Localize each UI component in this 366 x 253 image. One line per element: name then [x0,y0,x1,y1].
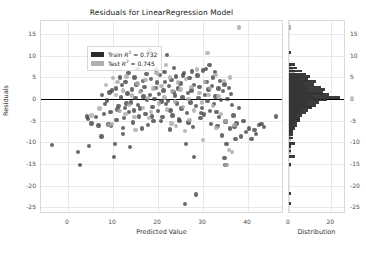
scatter-point-train [123,106,127,110]
page-title: Residuals for LinearRegression Model [40,8,283,17]
scatter-point-train [205,99,209,103]
scatter-point-train [254,132,258,136]
scatter-point-test [165,107,169,111]
histogram-bar-train [289,202,291,205]
y-tick-label: 5 [14,73,36,80]
scatter-point-train [174,74,178,78]
scatter-point-test [130,93,134,97]
scatter-point-test [124,74,128,78]
legend-item-train[interactable]: Train R2 = 0.732 [91,50,157,59]
scatter-point-train [170,113,174,117]
scatter-point-test [174,124,178,128]
scatter-point-train [78,163,82,167]
scatter-point-train [204,67,208,71]
scatter-point-train [194,192,198,196]
gridline [41,207,282,208]
scatter-point-test [181,105,185,109]
y-tick-label-right: -5 [350,116,356,123]
scatter-point-train [216,86,220,90]
histogram-bar-train [289,51,291,54]
scatter-point-test [121,88,125,92]
scatter-point-test [97,106,101,110]
scatter-point-train [220,133,224,137]
scatter-point-test [162,95,166,99]
scatter-point-test [89,113,93,117]
scatter-point-train [87,144,91,148]
y-tick-label-right: -25 [350,203,360,210]
y-tick-label-right: 10 [350,51,358,58]
scatter-point-test [206,93,210,97]
scatter-point-train [209,122,213,126]
scatter-point-test [203,80,207,84]
scatter-point-train [114,86,118,90]
scatter-point-train [128,145,132,149]
scatter-point-test [169,121,173,125]
scatter-point-test [159,84,163,88]
scatter-point-train [237,106,241,110]
scatter-point-train [195,73,199,77]
scatter-point-train [167,84,171,88]
scatter-point-train [114,118,118,122]
scatter-point-train [168,108,172,112]
scatter-point-train [131,120,135,124]
scatter-point-train [150,105,154,109]
scatter-point-train [121,132,125,136]
gridline [41,77,282,78]
scatter-point-train [185,111,189,115]
scatter-point-train [231,113,235,117]
gridline [331,21,332,212]
scatter-point-test [224,163,228,167]
histogram-bar-train [289,137,293,140]
scatter-point-train [118,75,122,79]
histogram-plot-area [288,20,345,213]
scatter-point-train [142,85,146,89]
residuals-figure: Residuals for LinearRegression Model Res… [0,0,366,253]
x-tick-label: 40 [243,218,251,225]
scatter-point-train [262,125,266,129]
scatter-point-test [135,81,139,85]
scatter-point-train [152,97,156,101]
scatter-point-train [180,95,184,99]
x-tick-label: 10 [108,218,116,225]
legend-label-test: Test R2 = 0.745 [108,59,155,67]
scatter-point-test [141,106,145,110]
scatter-point-train [192,155,196,159]
y-axis-label: Residuals [2,85,10,116]
scatter-point-train [149,77,153,81]
scatter-point-test [187,118,191,122]
scatter-point-train [230,103,234,107]
y-tick-label: 10 [14,51,36,58]
y-tick-label: -10 [14,138,36,145]
histogram-x-tick-label: 0 [286,218,290,225]
x-tick-label: 30 [198,218,206,225]
scatter-point-test [127,103,131,107]
scatter-point-train [94,115,98,119]
scatter-point-train [173,93,177,97]
scatter-point-train [122,116,126,120]
scatter-point-test [197,91,201,95]
scatter-point-test [201,138,205,142]
scatter-point-test [223,119,227,123]
x-tick-label: 0 [65,218,69,225]
legend-item-test[interactable]: Test R2 = 0.745 [91,59,157,68]
scatter-point-train [191,125,195,129]
scatter-point-train [168,127,172,131]
gridline [289,164,344,165]
scatter-plot-area: Train R2 = 0.732 Test R2 = 0.745 [40,20,283,213]
scatter-point-test [178,87,182,91]
scatter-point-test [133,128,137,132]
scatter-point-test [211,104,215,108]
scatter-point-test [222,79,226,83]
scatter-point-train [130,87,134,91]
scatter-point-test [123,112,127,116]
x-tick-label: 20 [153,218,161,225]
histogram-bar-train [289,155,295,158]
scatter-point-train [224,142,228,146]
scatter-point-train [132,108,136,112]
scatter-point-train [119,95,123,99]
scatter-point-test [176,80,180,84]
scatter-point-test [183,129,187,133]
scatter-point-train [249,137,253,141]
scatter-point-test [219,112,223,116]
scatter-point-test [151,86,155,90]
